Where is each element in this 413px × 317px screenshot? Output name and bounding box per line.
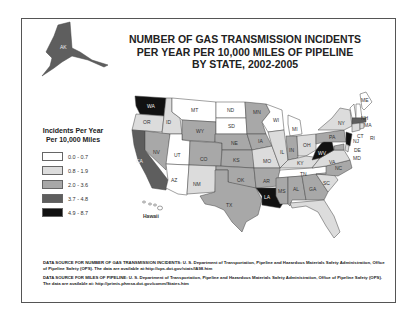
svg-text:VA: VA [329,159,336,165]
svg-text:TX: TX [226,202,233,208]
svg-text:SD: SD [228,123,235,129]
legend-title: Incidents Per Year Per 10,000 Miles [30,126,116,144]
svg-text:PA: PA [329,134,336,140]
svg-text:AZ: AZ [171,177,177,183]
legend-item: 4.9 - 8.7 [42,208,116,217]
legend-label: 0.0 - 0.7 [68,154,88,160]
svg-text:IL: IL [280,149,284,155]
legend-title-line-2: Per 10,000 Miles [30,135,116,144]
state-NJ [346,132,352,146]
legend-label: 3.7 - 4.8 [68,196,88,202]
source-incidents: DATA SOURCE FOR NUMBER OF GAS TRANSMISSI… [43,260,388,271]
svg-text:KS: KS [233,157,240,163]
svg-text:AL: AL [293,186,299,192]
svg-text:ME: ME [361,97,369,103]
svg-text:MD: MD [353,155,361,161]
svg-text:NY: NY [338,120,346,126]
svg-text:MA: MA [364,122,372,128]
svg-text:UT: UT [174,152,181,158]
svg-text:MN: MN [253,109,261,115]
svg-text:WY: WY [196,128,205,134]
state-MD [334,144,344,150]
svg-text:KY: KY [297,160,304,166]
svg-text:SC: SC [323,180,330,186]
svg-text:GA: GA [309,186,317,192]
legend-label: 2.0 - 3.6 [68,182,88,188]
svg-text:WA: WA [147,103,156,109]
map-title: NUMBER OF GAS TRANSMISSION INCIDENTS PER… [105,33,385,71]
hawaii-label: Hawaii [143,213,159,219]
svg-text:IA: IA [258,138,263,144]
title-line-2: PER YEAR PER 10,000 MILES OF PIPELINE [105,46,385,59]
svg-text:IN: IN [289,147,294,153]
state-CT [352,123,360,132]
legend-swatch [42,180,63,189]
state-HI [143,201,163,210]
svg-text:OK: OK [237,177,245,183]
svg-text:AR: AR [263,178,270,184]
legend-label: 0.8 - 1.9 [68,168,88,174]
state-CO [189,141,222,166]
svg-text:RI: RI [370,135,375,141]
svg-text:ID: ID [166,119,171,125]
legend-swatch [42,208,63,217]
svg-text:CA: CA [136,158,144,164]
legend-label: 4.9 - 8.7 [68,210,88,216]
svg-text:WI: WI [273,117,279,123]
state-NY [318,108,352,130]
state-AZ [166,164,189,195]
svg-text:NE: NE [231,140,239,146]
svg-text:MO: MO [263,158,271,164]
svg-text:OR: OR [143,119,151,125]
svg-text:WV: WV [318,150,327,156]
svg-text:LA: LA [264,194,271,200]
legend-swatch [42,194,63,203]
legend-item: 2.0 - 3.6 [42,180,116,189]
state-AK [42,22,108,76]
svg-text:ND: ND [227,107,235,113]
title-line-3: BY STATE, 2002-2005 [105,58,385,71]
legend-items: 0.0 - 0.7 0.8 - 1.9 2.0 - 3.6 3.7 - 4.8 … [42,152,116,217]
svg-text:TN: TN [300,171,307,177]
svg-text:NM: NM [193,181,201,187]
svg-text:OH: OH [303,142,311,148]
svg-text:NH: NH [361,115,369,121]
state-FL [290,200,340,238]
svg-text:MS: MS [278,188,286,194]
svg-text:MT: MT [191,107,198,113]
legend-swatch [42,152,63,161]
legend: Incidents Per Year Per 10,000 Miles 0.0 … [30,126,116,222]
legend-title-line-1: Incidents Per Year [30,126,116,135]
legend-item: 0.0 - 0.7 [42,152,116,161]
state-NM [187,165,216,194]
svg-text:CO: CO [200,156,208,162]
svg-text:DE: DE [354,147,362,153]
svg-text:NC: NC [335,165,343,171]
svg-text:AK: AK [60,44,67,50]
legend-item: 0.8 - 1.9 [42,166,116,175]
svg-text:CT: CT [357,133,364,139]
title-line-1: NUMBER OF GAS TRANSMISSION INCIDENTS [105,33,385,46]
legend-swatch [42,166,63,175]
legend-item: 3.7 - 4.8 [42,194,116,203]
data-sources: DATA SOURCE FOR NUMBER OF GAS TRANSMISSI… [43,260,388,290]
svg-text:MI: MI [292,126,298,132]
svg-text:NV: NV [153,149,161,155]
source-miles: DATA SOURCE FOR MILES OF PIPELINE: U. S.… [43,275,388,286]
